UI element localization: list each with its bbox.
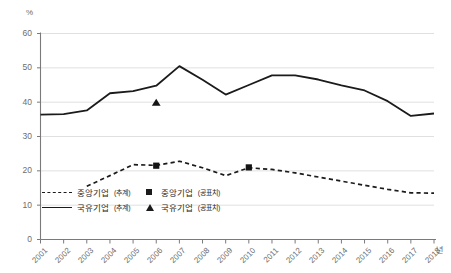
y-tick-label-20: 20 (10, 165, 32, 175)
legend-label: 국유기업 (77, 201, 109, 213)
y-tick-label-30: 30 (10, 131, 32, 141)
legend-soe-estimate[interactable]: 국유기업(추계) (42, 201, 131, 213)
legend-label-suffix: (추계) (114, 187, 131, 197)
chart-plot-area (0, 0, 451, 273)
legend-central-published[interactable]: 중앙기업(공표치) (145, 186, 221, 198)
data-markers-group (152, 99, 252, 171)
y-tick-label-0: 0 (10, 234, 32, 244)
marker-square-central-published (153, 163, 159, 169)
chart-container: % 6050403020100 200120022003200420052006… (0, 0, 451, 273)
y-tick-label-10: 10 (10, 200, 32, 210)
legend-label-suffix: (추계) (114, 202, 131, 212)
legend-label: 국유기업 (161, 201, 193, 213)
legend-label-suffix: (공표치) (198, 187, 221, 197)
gridlines-group (41, 34, 435, 206)
chart-legend: 중앙기업(추계)중앙기업(공표치)국유기업(추계)국유기업(공표치) (42, 186, 220, 213)
x-axis-unit-label: 년 (436, 244, 443, 255)
legend-label: 중앙기업 (77, 186, 109, 198)
data-series-group (41, 66, 435, 193)
y-tick-label-60: 60 (10, 28, 32, 38)
y-tick-label-40: 40 (10, 97, 32, 107)
y-tick-label-50: 50 (10, 62, 32, 72)
series-line-soe-estimate (41, 66, 435, 116)
legend-label-suffix: (공표치) (198, 202, 221, 212)
legend-key-solid-icon (42, 203, 72, 212)
marker-square-central-published (246, 164, 252, 170)
legend-soe-published[interactable]: 국유기업(공표치) (145, 201, 221, 213)
legend-key-tri-icon (145, 203, 156, 212)
legend-central-estimate[interactable]: 중앙기업(추계) (42, 186, 131, 198)
legend-key-dash-icon (42, 188, 72, 197)
legend-key-sq-icon (145, 188, 156, 197)
legend-label: 중앙기업 (161, 186, 193, 198)
